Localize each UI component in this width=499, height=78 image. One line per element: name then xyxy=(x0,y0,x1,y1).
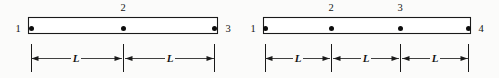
dimension-arrowhead-3a xyxy=(403,56,410,61)
bar-outline xyxy=(29,18,218,34)
dimension-label-3: L xyxy=(431,52,439,64)
bar-outline xyxy=(264,18,471,34)
figure-container: LL123LLL1234 xyxy=(0,0,499,78)
two-node-spacing-bar: LL123 xyxy=(15,2,230,72)
node-label-1: 1 xyxy=(15,23,20,34)
dimension-arrowhead-2b xyxy=(207,56,214,61)
dimension-label-2: L xyxy=(166,52,174,64)
node-dot-3 xyxy=(212,26,217,31)
dimension-arrowhead-2a xyxy=(334,56,341,61)
node-label-4: 4 xyxy=(478,23,484,34)
dimension-arrowhead-1b xyxy=(115,56,122,61)
node-label-1: 1 xyxy=(250,23,255,34)
dimension-label-1: L xyxy=(72,52,80,64)
node-dot-4 xyxy=(466,26,471,31)
node-label-2: 2 xyxy=(328,2,333,13)
dimension-arrowhead-3b xyxy=(461,56,468,61)
node-dot-3 xyxy=(398,26,403,31)
dimension-arrowhead-2a xyxy=(126,56,133,61)
dimension-arrowhead-1a xyxy=(32,56,39,61)
dimension-label-2: L xyxy=(362,52,370,64)
node-label-2: 2 xyxy=(120,2,125,13)
node-dot-2 xyxy=(121,26,126,31)
dimension-label-1: L xyxy=(294,52,302,64)
dimension-arrowhead-2b xyxy=(392,56,399,61)
dimension-arrowhead-1b xyxy=(323,56,330,61)
bar-element-diagram: LL123LLL1234 xyxy=(0,0,499,78)
dimension-arrowhead-1a xyxy=(266,56,273,61)
three-node-spacing-bar: LLL1234 xyxy=(250,2,484,72)
node-label-3: 3 xyxy=(225,23,230,34)
node-label-3: 3 xyxy=(397,2,402,13)
node-dot-1 xyxy=(263,26,268,31)
node-dot-2 xyxy=(329,26,334,31)
node-dot-1 xyxy=(29,26,34,31)
